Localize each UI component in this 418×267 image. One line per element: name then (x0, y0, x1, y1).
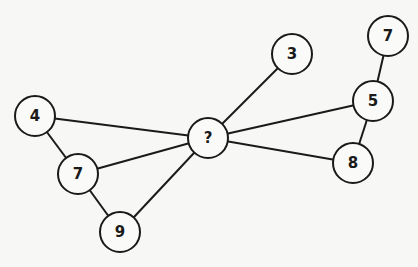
node-5: 5 (352, 80, 394, 122)
node-9: 9 (99, 211, 141, 253)
node-7-top: 7 (367, 15, 409, 57)
edge-center-n5 (208, 101, 373, 138)
node-3: 3 (271, 33, 313, 75)
node-8: 8 (332, 142, 374, 184)
graph-diagram: ? 3 7 5 8 4 7 9 (0, 0, 418, 267)
node-4: 4 (14, 95, 56, 137)
node-center-unknown: ? (187, 117, 229, 159)
edge-center-n4 (35, 116, 208, 138)
node-7-left: 7 (57, 153, 99, 195)
